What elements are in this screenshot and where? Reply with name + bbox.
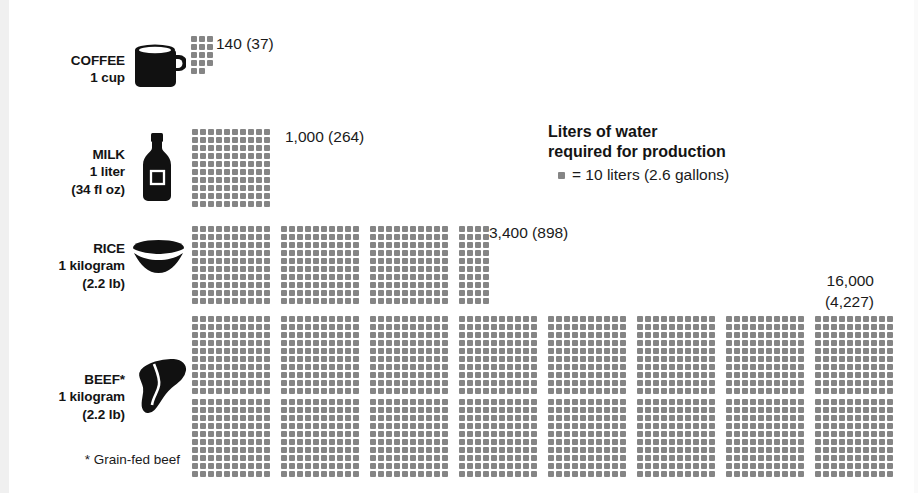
water-unit-dot [200,234,206,240]
water-unit-dot [491,364,497,370]
water-unit-dot [645,380,651,386]
water-unit-dot [693,447,699,453]
water-unit-dot [264,356,270,362]
water-unit-dot [782,455,788,461]
dot-column [239,398,247,478]
water-unit-dot [491,356,497,362]
water-unit-dot [321,439,327,445]
water-unit-dot [531,380,537,386]
water-unit-dot [224,348,230,354]
water-unit-dot [782,415,788,421]
water-unit-dot [370,242,376,248]
water-unit-dot [750,415,756,421]
water-unit-dot [855,356,861,362]
water-unit-dot [467,266,473,272]
water-unit-dot [742,348,748,354]
water-unit-dot [281,471,287,477]
water-unit-dot [305,298,311,304]
dot-block [280,398,360,478]
water-unit-dot [871,455,877,461]
water-unit-dot [386,439,392,445]
water-unit-dot [192,356,198,362]
water-unit-dot [548,316,554,322]
water-unit-dot [410,380,416,386]
water-unit-dot [887,455,893,461]
water-unit-dot [499,423,505,429]
water-unit-dot [750,316,756,322]
water-unit-dot [572,471,578,477]
dot-column [215,225,223,305]
dot-column [611,398,619,478]
water-unit-dot [871,447,877,453]
water-unit-dot [653,431,659,437]
water-unit-dot [653,463,659,469]
water-unit-dot [337,439,343,445]
water-unit-dot [297,282,303,288]
water-unit-dot [192,250,198,256]
dot-column [765,398,773,478]
dot-column [207,398,215,478]
water-unit-dot [224,250,230,256]
water-unit-dot [758,388,764,394]
water-unit-dot [224,380,230,386]
water-unit-dot [442,399,448,405]
dot-column [466,315,474,395]
water-unit-dot [434,423,440,429]
dot-column [482,398,490,478]
water-unit-dot [410,471,416,477]
water-unit-dot [313,298,319,304]
water-unit-dot [386,447,392,453]
water-unit-dot [863,340,869,346]
water-unit-dot [758,316,764,322]
water-unit-dot [386,298,392,304]
water-unit-dot [798,455,804,461]
water-unit-dot [467,423,473,429]
water-unit-dot [653,324,659,330]
water-unit-dot [758,340,764,346]
water-unit-dot [216,340,222,346]
water-unit-dot [491,463,497,469]
water-unit-dot [264,177,270,183]
water-unit-dot [207,60,213,66]
water-unit-dot [491,407,497,413]
dot-column [401,398,409,478]
water-unit-dot [774,431,780,437]
water-unit-dot [750,372,756,378]
water-unit-dot [596,380,602,386]
water-unit-dot [313,364,319,370]
water-unit-dot [232,290,238,296]
water-unit-dot [483,242,489,248]
water-unit-dot [297,242,303,248]
water-unit-dot [329,380,335,386]
water-unit-dot [418,324,424,330]
water-unit-dot [345,439,351,445]
water-unit-dot [726,439,732,445]
water-unit-dot [410,439,416,445]
water-unit-dot [434,324,440,330]
water-unit-dot [248,340,254,346]
dot-column [652,315,660,395]
water-unit-dot [839,423,845,429]
water-unit-dot [394,316,400,322]
water-unit-dot [798,324,804,330]
water-unit-dot [208,137,214,143]
water-unit-dot [815,380,821,386]
water-unit-dot [701,364,707,370]
water-unit-dot [442,258,448,264]
water-unit-dot [815,372,821,378]
water-unit-dot [726,431,732,437]
water-unit-dot [645,471,651,477]
water-unit-dot [774,471,780,477]
water-unit-dot [701,431,707,437]
dot-block [206,35,214,67]
water-unit-dot [637,316,643,322]
water-unit-dot [264,388,270,394]
water-unit-dot [774,372,780,378]
water-unit-dot [329,431,335,437]
water-unit-dot [774,332,780,338]
water-unit-dot [612,471,618,477]
water-unit-dot [418,423,424,429]
dot-column [611,315,619,395]
water-unit-dot [281,274,287,280]
water-unit-dot [200,185,206,191]
